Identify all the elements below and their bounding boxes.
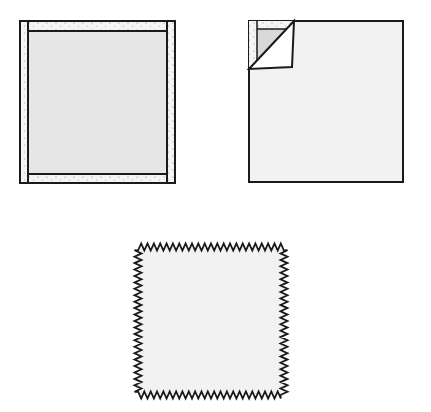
pinked-square [135, 244, 288, 399]
illustration-canvas [0, 0, 431, 412]
fabric-center [28, 31, 167, 174]
bound-square [20, 21, 175, 183]
folded-corner-square [249, 21, 403, 182]
zigzag-edge [135, 244, 288, 399]
